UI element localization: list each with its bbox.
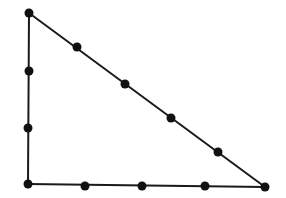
edges-layer <box>28 13 265 187</box>
point-hyp-3 <box>167 114 176 123</box>
point-bottom-3 <box>201 182 210 191</box>
point-bottom-1 <box>81 182 90 191</box>
point-hyp-1 <box>73 43 82 52</box>
bottom-side-edge <box>28 184 265 187</box>
point-v-bottom-right <box>261 183 270 192</box>
point-hyp-4 <box>214 148 223 157</box>
triangle-diagram <box>0 0 286 198</box>
point-left-2 <box>24 124 33 133</box>
point-v-bottom-left <box>24 180 33 189</box>
point-bottom-2 <box>138 182 147 191</box>
point-left-1 <box>25 67 34 76</box>
point-hyp-2 <box>121 80 130 89</box>
left-side-edge <box>28 13 29 184</box>
point-v-top-left <box>25 9 34 18</box>
hypotenuse-edge <box>29 13 265 187</box>
triangle-svg <box>0 0 286 198</box>
